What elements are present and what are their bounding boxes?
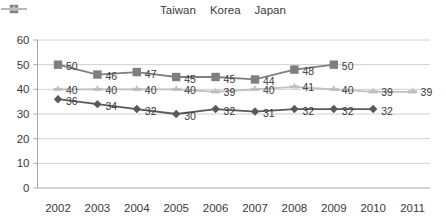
y-axis-tick-labels: 0102030405060 xyxy=(17,34,30,194)
x-axis-tick-label: 2010 xyxy=(360,202,386,214)
marker-diamond xyxy=(290,105,298,113)
marker-diamond xyxy=(93,100,101,108)
marker-cross xyxy=(95,85,100,91)
x-axis-tick-label: 2003 xyxy=(85,202,111,214)
data-label: 40 xyxy=(145,84,157,96)
data-label: 40 xyxy=(263,84,275,96)
marker-cross xyxy=(213,87,218,93)
y-axis-tick-label: 40 xyxy=(17,83,30,95)
marker-cross xyxy=(253,85,258,91)
y-axis-tick-label: 0 xyxy=(23,182,29,194)
data-label: 50 xyxy=(66,60,78,72)
data-label: 30 xyxy=(184,110,196,122)
marker-diamond xyxy=(330,105,338,113)
data-label: 40 xyxy=(105,84,117,96)
marker-cross xyxy=(410,87,415,93)
data-label: 39 xyxy=(224,86,236,98)
data-label: 31 xyxy=(263,107,275,119)
data-label: 39 xyxy=(421,86,433,98)
data-label: 32 xyxy=(145,105,157,117)
data-label: 48 xyxy=(302,65,314,77)
data-label: 32 xyxy=(342,105,354,117)
y-axis-tick-label: 10 xyxy=(17,157,30,169)
x-axis-tick-label: 2011 xyxy=(400,202,425,214)
marker-cross xyxy=(134,85,139,91)
line-chart: TaiwanKoreaJapan 0102030405060 200220032… xyxy=(0,0,446,222)
data-label: 40 xyxy=(184,84,196,96)
x-axis-tick-label: 2008 xyxy=(282,202,308,214)
data-label: 40 xyxy=(66,84,78,96)
marker-cross xyxy=(331,85,336,91)
y-axis-line xyxy=(34,40,38,188)
x-axis-tick-label: 2004 xyxy=(124,202,150,214)
data-label: 36 xyxy=(66,95,78,107)
y-axis-tick-label: 50 xyxy=(17,59,30,71)
marker-diamond xyxy=(211,105,219,113)
marker-square xyxy=(251,75,259,83)
y-axis-tick-label: 20 xyxy=(17,133,30,145)
marker-cross xyxy=(292,82,297,88)
data-label: 32 xyxy=(381,105,393,117)
marker-square xyxy=(172,73,180,81)
marker-cross xyxy=(174,85,179,91)
y-axis-tick-label: 60 xyxy=(17,34,30,46)
marker-square xyxy=(211,73,219,81)
y-axis-tick-label: 30 xyxy=(17,108,30,120)
data-label: 41 xyxy=(302,81,314,93)
marker-square xyxy=(93,70,101,78)
x-axis-tick-label: 2002 xyxy=(45,202,71,214)
data-label: 32 xyxy=(302,105,314,117)
marker-square xyxy=(133,68,141,76)
x-axis-tick-labels: 2002200320042005200620072008200920102011 xyxy=(45,202,425,214)
x-axis-tick-label: 2006 xyxy=(203,202,229,214)
data-label: 47 xyxy=(145,68,157,80)
marker-square xyxy=(290,65,298,73)
chart-canvas: 0102030405060 20022003200420052006200720… xyxy=(0,0,446,222)
x-axis-tick-label: 2005 xyxy=(163,202,189,214)
data-label: 39 xyxy=(381,86,393,98)
data-label: 40 xyxy=(342,84,354,96)
marker-diamond xyxy=(369,105,377,113)
data-label: 32 xyxy=(224,105,236,117)
marker-square xyxy=(330,60,338,68)
x-axis-tick-label: 2009 xyxy=(321,202,347,214)
marker-diamond xyxy=(54,95,62,103)
marker-square xyxy=(54,60,62,68)
marker-diamond xyxy=(172,110,180,118)
x-axis-tick-label: 2007 xyxy=(242,202,268,214)
data-label: 34 xyxy=(105,100,117,112)
marker-cross xyxy=(371,87,376,93)
data-label: 50 xyxy=(342,60,354,72)
marker-diamond xyxy=(133,105,141,113)
data-label: 45 xyxy=(224,73,236,85)
data-label: 46 xyxy=(105,70,117,82)
data-label: 45 xyxy=(184,73,196,85)
marker-cross xyxy=(56,85,61,91)
